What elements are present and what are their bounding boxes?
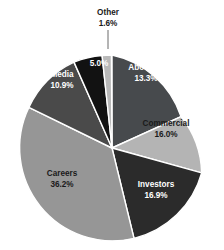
label-cr-name: CR bbox=[93, 48, 105, 57]
label-cr-pct: 5.0% bbox=[90, 59, 109, 68]
label-investors-pct: 16.9% bbox=[144, 191, 168, 200]
label-about-us-pct: 13.3% bbox=[134, 74, 158, 83]
label-media-pct: 10.9% bbox=[50, 81, 74, 90]
label-commercial-name: Commercial bbox=[143, 119, 190, 128]
pie-chart-svg: About us 13.3% Commercial 16.0% Investor… bbox=[0, 0, 224, 250]
label-investors-name: Investors bbox=[138, 180, 175, 189]
label-commercial-pct: 16.0% bbox=[154, 130, 178, 139]
label-other-pct: 1.6% bbox=[99, 19, 118, 28]
pie-chart: About us 13.3% Commercial 16.0% Investor… bbox=[0, 0, 224, 250]
pie-slices bbox=[20, 55, 202, 241]
label-other-name: Other bbox=[97, 8, 120, 17]
label-other: Other 1.6% bbox=[97, 8, 120, 49]
label-about-us-name: About us bbox=[128, 63, 164, 72]
label-careers-pct: 36.2% bbox=[50, 180, 74, 189]
label-careers-name: Careers bbox=[47, 169, 78, 178]
label-media-name: Media bbox=[50, 70, 74, 79]
